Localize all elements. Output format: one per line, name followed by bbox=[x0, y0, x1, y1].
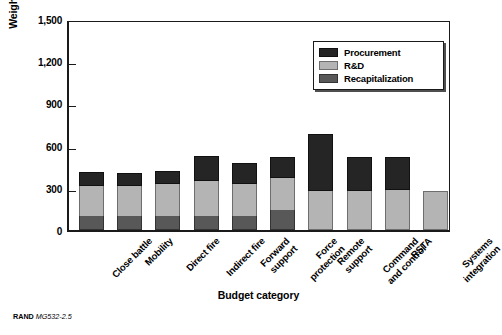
x-tick-label-line: Direct fire bbox=[184, 236, 222, 274]
x-tick-label: Systemsintegration bbox=[454, 236, 502, 284]
x-tick-label: Direct fire bbox=[184, 236, 222, 274]
x-axis-title: Budget category bbox=[67, 289, 450, 301]
x-tick-label: Remotesupport bbox=[335, 236, 374, 275]
footer-rand-mark: RAND bbox=[13, 312, 34, 321]
footer-credit: RAND MG532-2.5 bbox=[13, 312, 72, 321]
footer-report-id: MG532-2.5 bbox=[36, 312, 72, 321]
